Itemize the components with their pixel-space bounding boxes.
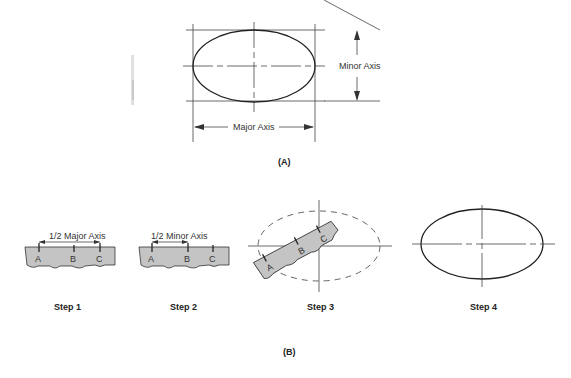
minor-axis-label: Minor Axis (339, 61, 381, 71)
half-major-axis-label: 1/2 Major Axis (49, 231, 106, 241)
figure-a: Minor Axis Major Axis (A) (183, 0, 381, 167)
half-minor-axis-label: 1/2 Minor Axis (151, 231, 208, 241)
mark-a: A (148, 254, 154, 264)
ellipse-construction-diagram: Minor Axis Major Axis (A) A B C 1/2 Majo… (0, 0, 571, 378)
caption-a: (A) (278, 157, 291, 167)
mark-c: C (96, 254, 103, 264)
major-axis-label: Major Axis (233, 122, 275, 132)
mark-c: C (209, 254, 216, 264)
step-2-label: Step 2 (170, 302, 197, 312)
step-4-label: Step 4 (470, 302, 497, 312)
mark-a: A (35, 254, 41, 264)
step-2: A B C 1/2 Minor Axis Step 2 (139, 231, 229, 312)
caption-b: (B) (283, 347, 296, 357)
step-3-label: Step 3 (307, 302, 334, 312)
step-1: A B C 1/2 Major Axis Step 1 (25, 231, 115, 312)
step-4: Step 4 (412, 205, 555, 312)
scan-smudge (131, 55, 134, 105)
step-3: A B C Step 3 (248, 200, 392, 312)
step-1-label: Step 1 (54, 302, 81, 312)
mark-b: B (70, 254, 76, 264)
mark-b: B (184, 254, 190, 264)
